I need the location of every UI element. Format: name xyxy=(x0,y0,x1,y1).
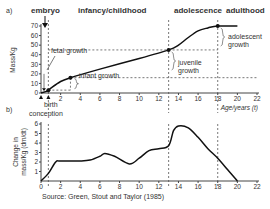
x-tick-label: 12 xyxy=(155,95,163,102)
y-tick-label: 4 xyxy=(34,139,38,146)
fetal-growth-pointer xyxy=(47,56,55,70)
annotation-conception: conception xyxy=(29,110,63,118)
y-tick-label: 30 xyxy=(31,61,39,68)
x-tick-label: 22 xyxy=(253,95,261,102)
x-tick-label: 6 xyxy=(98,95,102,102)
x-tick-label: 4 xyxy=(78,95,82,102)
x-tick-label: 16 xyxy=(194,183,202,190)
y-tick-label: 20 xyxy=(31,70,39,77)
y-tick-label: 6 xyxy=(34,120,38,127)
x-tick-label: 0 xyxy=(39,183,43,190)
y-tick-label: 0 xyxy=(34,89,38,96)
data-point xyxy=(68,76,72,80)
x-tick-label: 4 xyxy=(78,183,82,190)
y-tick-label: 1 xyxy=(34,168,38,175)
adolescent-brace xyxy=(221,28,225,46)
x-tick-label: 16 xyxy=(194,95,202,102)
y-axis-label-line2: mass/Kg (dm/dt) xyxy=(20,128,28,176)
x-tick-label: 12 xyxy=(155,183,163,190)
x-tick-label: 14 xyxy=(175,95,183,102)
x-tick-label: 22 xyxy=(253,183,261,190)
fetal-arrow-head xyxy=(42,88,46,91)
stage-adulthood: adulthood xyxy=(226,6,265,15)
y-tick-label: 2 xyxy=(34,158,38,165)
birth-arrow xyxy=(46,95,50,99)
data-point xyxy=(216,24,220,28)
y-tick-label: 70 xyxy=(31,22,39,29)
panel-b-label: b) xyxy=(6,106,12,114)
annotation-fetal-growth: fetal growth xyxy=(51,47,87,55)
stage-adolescence: adolescence xyxy=(174,6,223,15)
x-tick-label: 2 xyxy=(59,183,63,190)
stage-infancy: infancy/childhood xyxy=(78,6,147,15)
x-tick-label: 14 xyxy=(175,183,183,190)
x-tick-label: 2 xyxy=(59,95,63,102)
source-caption: Source: Green, Stout and Taylor (1985) xyxy=(42,193,164,201)
annotation-infant-growth: infant growth xyxy=(79,72,119,80)
y-tick-label: 5 xyxy=(34,130,38,137)
y-tick-label: 50 xyxy=(31,41,39,48)
annotation-adolescent: adolescent xyxy=(228,33,262,40)
stage-labels: a) embryo infancy/childhood adolescence … xyxy=(6,6,265,15)
x-tick-label: 20 xyxy=(234,183,242,190)
y-tick-label: 10 xyxy=(31,80,39,87)
growth-charts: a) embryo infancy/childhood adolescence … xyxy=(0,0,270,209)
y-axis-label-line1: Change in xyxy=(12,137,20,167)
stage-embryo: embryo xyxy=(31,6,60,15)
growth-figure: a) embryo infancy/childhood adolescence … xyxy=(0,0,270,209)
panel-a-label: a) xyxy=(6,7,12,15)
annotation-juvenile: juvenile xyxy=(177,59,202,67)
growth-rate-curve xyxy=(41,126,237,181)
embryo-arrow-head xyxy=(42,23,48,28)
x-axis-label: Age/years (t) xyxy=(220,104,258,112)
x-tick-label: 8 xyxy=(118,183,122,190)
y-tick-label: 60 xyxy=(31,32,39,39)
x-tick-label: 10 xyxy=(136,95,144,102)
annotation-adolescent-growth: growth xyxy=(228,41,249,49)
y-tick-label: 40 xyxy=(31,51,39,58)
infant-brace xyxy=(74,79,78,89)
x-tick-label: 6 xyxy=(98,183,102,190)
annotation-juvenile-growth: growth xyxy=(178,67,199,75)
data-point xyxy=(46,88,50,92)
annotation-birth: birth xyxy=(44,101,58,108)
y-axis-label: Mass/Kg xyxy=(9,47,17,73)
x-tick-label: 10 xyxy=(136,183,144,190)
panel-a-mass-chart: 010203040506070246810121416182022Mass/Kg… xyxy=(9,20,262,118)
x-tick-label: 8 xyxy=(118,95,122,102)
conception-arrow xyxy=(39,95,43,99)
panel-b-growth-rate-chart: 1234560246810121416182022Change inmass/K… xyxy=(12,120,261,190)
data-point xyxy=(167,48,171,52)
juvenile-brace xyxy=(172,52,176,70)
x-tick-label: 20 xyxy=(234,95,242,102)
y-tick-label: 3 xyxy=(34,149,38,156)
